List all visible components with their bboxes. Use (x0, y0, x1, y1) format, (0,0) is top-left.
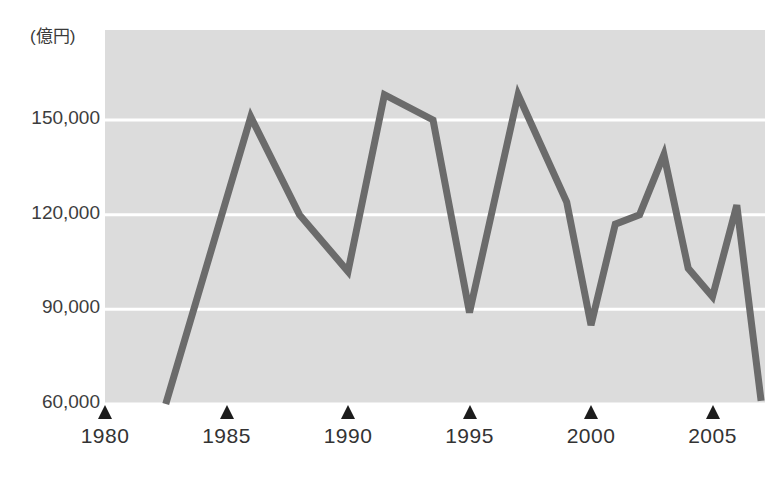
x-axis-tick-marker-icon (706, 405, 720, 419)
x-axis-tick-label: 1990 (324, 424, 373, 448)
x-axis-tick-marker-icon (98, 405, 112, 419)
chart-figure: (億円) 150,000120,00090,00060,000 19801985… (0, 0, 779, 479)
x-axis-tick-label: 1985 (202, 424, 251, 448)
x-axis-tick-label: 1995 (445, 424, 494, 448)
x-axis: 198019851990199520002005 (0, 0, 779, 479)
bottom-strip (0, 468, 779, 479)
x-axis-tick-marker-icon (584, 405, 598, 419)
x-axis-tick-marker-icon (463, 405, 477, 419)
x-axis-tick-label: 1980 (81, 424, 130, 448)
x-axis-tick-label: 2005 (688, 424, 737, 448)
x-axis-tick-label: 2000 (567, 424, 616, 448)
x-axis-tick-marker-icon (220, 405, 234, 419)
x-axis-tick-marker-icon (341, 405, 355, 419)
